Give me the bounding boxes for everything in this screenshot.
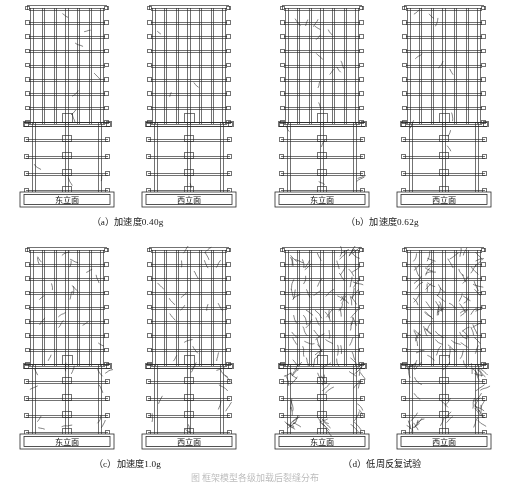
subfigure-caption-a: （a）加速度0.40g [0,214,255,228]
svg-text:西立面: 西立面 [177,195,201,205]
subfigure-c: 东立面 西立面 （c）加速度1.0g [0,242,255,484]
elevation-a-west: 西立面 [140,4,238,209]
elevation-pair-a: 东立面 西立面 [0,4,255,209]
elevation-pair-b: 东立面 西立面 [255,4,510,209]
elevation-d-east: 东立面 [273,246,371,451]
elevation-d-east: 东立面 [273,246,371,451]
subfigure-b: 东立面 西立面 （b）加速度0.62g [255,0,510,242]
panel-grid: 东立面 西立面 （a）加速度0.40g 东立面 西立面 （b）加速度0.62g [0,0,510,484]
subfigure-d: 东立面 西立面 （d）低周反复试验 [255,242,510,484]
svg-text:东立面: 东立面 [55,437,79,447]
figure-master-caption: 图 框架模型各级加载后裂缝分布 [0,471,510,484]
elevation-pair-c: 东立面 西立面 [0,246,255,451]
figure-root: 东立面 西立面 （a）加速度0.40g 东立面 西立面 （b）加速度0.62g [0,0,510,484]
svg-text:西立面: 西立面 [177,437,201,447]
elevation-b-west: 西立面 [395,4,493,209]
subfigure-caption-b: （b）加速度0.62g [255,214,510,228]
elevation-c-east: 东立面 [18,246,116,451]
subfigure-a: 东立面 西立面 （a）加速度0.40g [0,0,255,242]
elevation-pair-d: 东立面 西立面 [255,246,510,451]
subfigure-caption-d: （d）低周反复试验 [255,456,510,470]
elevation-a-east: 东立面 [18,4,116,209]
svg-text:西立面: 西立面 [432,195,456,205]
elevation-c-west: 西立面 [140,246,238,451]
elevation-b-east: 东立面 [273,4,371,209]
elevation-c-west: 西立面 [140,246,238,451]
elevation-b-west: 西立面 [395,4,493,209]
svg-text:东立面: 东立面 [55,195,79,205]
elevation-a-east: 东立面 [18,4,116,209]
elevation-d-west: 西立面 [395,246,493,451]
svg-text:东立面: 东立面 [310,195,334,205]
svg-text:东立面: 东立面 [310,437,334,447]
elevation-b-east: 东立面 [273,4,371,209]
elevation-a-west: 西立面 [140,4,238,209]
subfigure-caption-c: （c）加速度1.0g [0,456,255,470]
elevation-c-east: 东立面 [18,246,116,451]
elevation-d-west: 西立面 [395,246,493,451]
svg-text:西立面: 西立面 [432,437,456,447]
